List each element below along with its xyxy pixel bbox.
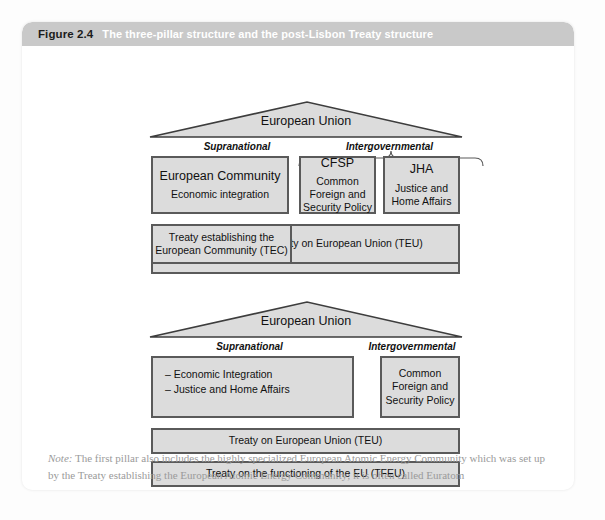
- policy-label: Common Foreign and Security Policy: [382, 367, 458, 406]
- note-text: The first pillar also includes the highl…: [48, 452, 545, 481]
- supranational-policy-box: – Economic Integration – Justice and Hom…: [151, 356, 354, 418]
- diagram-area: European Union Supranational Intergovern…: [22, 46, 574, 490]
- policy-list-item: – Economic Integration: [165, 367, 272, 382]
- policy-list-item: – Justice and Home Affairs: [165, 382, 290, 397]
- figure-header-bar: Figure 2.4 The three-pillar structure an…: [22, 22, 574, 46]
- figure-number: Figure 2.4: [38, 28, 93, 40]
- figure-panel: Figure 2.4 The three-pillar structure an…: [22, 22, 574, 490]
- category-label-intergovernmental-bottom: Intergovernmental: [352, 341, 472, 352]
- intergovernmental-policy-box: Common Foreign and Security Policy: [380, 356, 460, 418]
- roof-label-bottom: European Union: [150, 314, 462, 328]
- figure-note: Note: The first pillar also includes the…: [48, 450, 552, 483]
- category-label-supranational-bottom: Supranational: [162, 341, 337, 352]
- note-label: Note:: [48, 452, 72, 464]
- figure-caption: The three-pillar structure and the post-…: [102, 28, 433, 40]
- roof-triangle-bottom: [22, 46, 574, 346]
